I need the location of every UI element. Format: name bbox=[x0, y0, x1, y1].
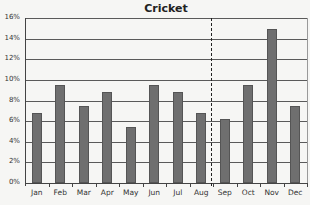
dashed-divider-line bbox=[211, 18, 212, 186]
y-tick-label: 14% bbox=[0, 34, 20, 42]
x-tick-label: Oct bbox=[236, 188, 260, 197]
x-tick-label: Feb bbox=[48, 188, 72, 197]
y-tick-label: 0% bbox=[0, 178, 20, 186]
x-tick-label: May bbox=[119, 188, 143, 197]
bar-jul bbox=[173, 92, 183, 183]
x-tick bbox=[307, 183, 308, 187]
x-tick bbox=[96, 183, 97, 187]
x-tick-label: Mar bbox=[72, 188, 96, 197]
bar-sep bbox=[220, 119, 230, 183]
bar-aug bbox=[196, 113, 206, 183]
x-tick bbox=[213, 183, 214, 187]
gridline bbox=[25, 101, 307, 102]
bar-apr bbox=[102, 92, 112, 183]
bar-mar bbox=[79, 106, 89, 183]
bar-jun bbox=[149, 85, 159, 183]
x-tick bbox=[166, 183, 167, 187]
x-tick-label: Jan bbox=[25, 188, 49, 197]
x-tick bbox=[49, 183, 50, 187]
gridline bbox=[25, 39, 307, 40]
x-tick-label: Jun bbox=[142, 188, 166, 197]
y-tick-label: 16% bbox=[0, 13, 20, 21]
x-tick bbox=[284, 183, 285, 187]
bar-may bbox=[126, 127, 136, 183]
x-tick bbox=[190, 183, 191, 187]
y-tick-label: 6% bbox=[0, 116, 20, 124]
x-tick-label: Nov bbox=[260, 188, 284, 197]
x-tick-label: Apr bbox=[95, 188, 119, 197]
gridline bbox=[25, 80, 307, 81]
gridline bbox=[25, 59, 307, 60]
y-axis-line bbox=[25, 18, 26, 186]
gridline bbox=[25, 121, 307, 122]
x-tick-label: Aug bbox=[189, 188, 213, 197]
x-tick bbox=[260, 183, 261, 187]
x-tick-label: Dec bbox=[283, 188, 307, 197]
x-tick bbox=[143, 183, 144, 187]
y-tick-label: 2% bbox=[0, 157, 20, 165]
chart-title: Cricket bbox=[25, 2, 307, 15]
y-tick-label: 4% bbox=[0, 137, 20, 145]
x-tick bbox=[237, 183, 238, 187]
y-tick-label: 8% bbox=[0, 96, 20, 104]
bar-jan bbox=[32, 113, 42, 183]
x-tick-label: Sep bbox=[213, 188, 237, 197]
gridline bbox=[25, 18, 307, 19]
bar-oct bbox=[243, 85, 253, 183]
bar-feb bbox=[55, 85, 65, 183]
x-tick-label: Jul bbox=[166, 188, 190, 197]
plot-area bbox=[25, 18, 308, 183]
y-tick-label: 12% bbox=[0, 54, 20, 62]
y-tick-label: 10% bbox=[0, 75, 20, 83]
bar-nov bbox=[267, 29, 277, 183]
bar-dec bbox=[290, 106, 300, 183]
x-tick bbox=[119, 183, 120, 187]
gridline bbox=[25, 142, 307, 143]
x-tick bbox=[72, 183, 73, 187]
gridline bbox=[25, 162, 307, 163]
